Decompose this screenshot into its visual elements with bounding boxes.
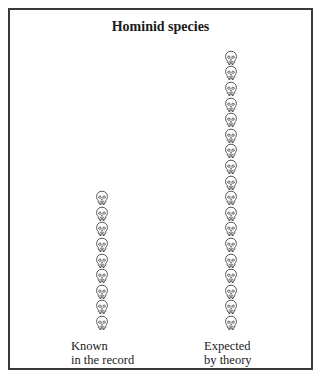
expected-label: Expected by theory [204,339,252,367]
skull-icon [223,143,239,159]
skull-icon [94,284,110,300]
skull-icon [94,206,110,222]
skull-icon [223,299,239,315]
skull-icon [94,221,110,237]
skull-icon [94,190,110,206]
skull-icon [223,159,239,175]
skull-icon [223,206,239,222]
expected-label-line1: Expected [204,339,252,353]
skull-icon [223,50,239,66]
figure-frame: Hominid species Known in the record Expe… [8,8,313,370]
known-label-line2: in the record [71,353,134,367]
skull-icon [94,253,110,269]
skull-icon [223,315,239,331]
skull-icon [223,284,239,300]
skull-icon [94,299,110,315]
expected-label-line2: by theory [204,353,252,367]
known-label: Known in the record [71,339,134,367]
skull-icon [223,128,239,144]
skull-icon [94,268,110,284]
skull-icon [223,190,239,206]
skull-icon [223,112,239,128]
figure-title: Hominid species [10,19,311,35]
skull-icon [223,237,239,253]
skull-icon [223,81,239,97]
known-label-line1: Known [71,339,134,353]
skull-icon [223,253,239,269]
skull-icon [223,268,239,284]
skull-icon [94,237,110,253]
skull-icon [223,175,239,191]
skull-icon [223,97,239,113]
skull-icon [223,65,239,81]
skull-icon [223,221,239,237]
skull-icon [94,315,110,331]
